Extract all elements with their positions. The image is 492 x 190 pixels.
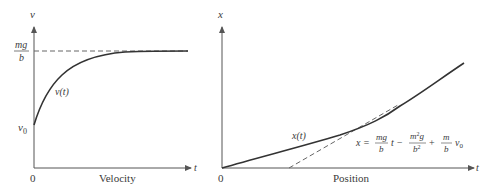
equation-t-minus: t − [391,137,403,148]
equation-lhs: x = [355,137,370,148]
velocity-curve-label: v(t) [55,86,70,98]
position-curve-label: x(t) [291,130,307,142]
asymptote-equation: x = mg b t − m2g b2 + m b v0 [355,131,463,154]
figure: v t 0 Velocity mg b v(t) v0 x t 0 Positi… [0,0,492,190]
velocity-chart: v t 0 Velocity mg b v(t) v0 [14,8,197,184]
equation-frac3-den: b [444,144,449,154]
equation-frac3-num: m [443,132,450,142]
position-curve [222,63,464,168]
velocity-x-axis-label: t [194,162,197,173]
position-x-axis-label: t [476,162,479,173]
position-chart: x t 0 Position x(t) x = mg b t − m2g b2 … [217,8,479,184]
position-y-axis-label: x [217,8,223,20]
velocity-origin-label: 0 [30,172,36,184]
position-origin-label: 0 [218,172,224,184]
equation-v0: v0 [455,137,463,150]
position-title: Position [333,172,370,184]
equation-frac2-num: m2g [410,131,425,141]
equation-frac2-den: b2 [413,144,421,154]
equation-frac1-num: mg [376,132,387,142]
velocity-title: Velocity [99,172,136,184]
equation-frac1-den: b [379,144,384,154]
asymptote-label-numerator: mg [15,39,27,50]
velocity-y-axis-label: v [30,8,35,20]
asymptote-label-denominator: b [19,52,24,63]
equation-plus: + [429,137,435,148]
initial-velocity-label: v0 [18,121,27,136]
